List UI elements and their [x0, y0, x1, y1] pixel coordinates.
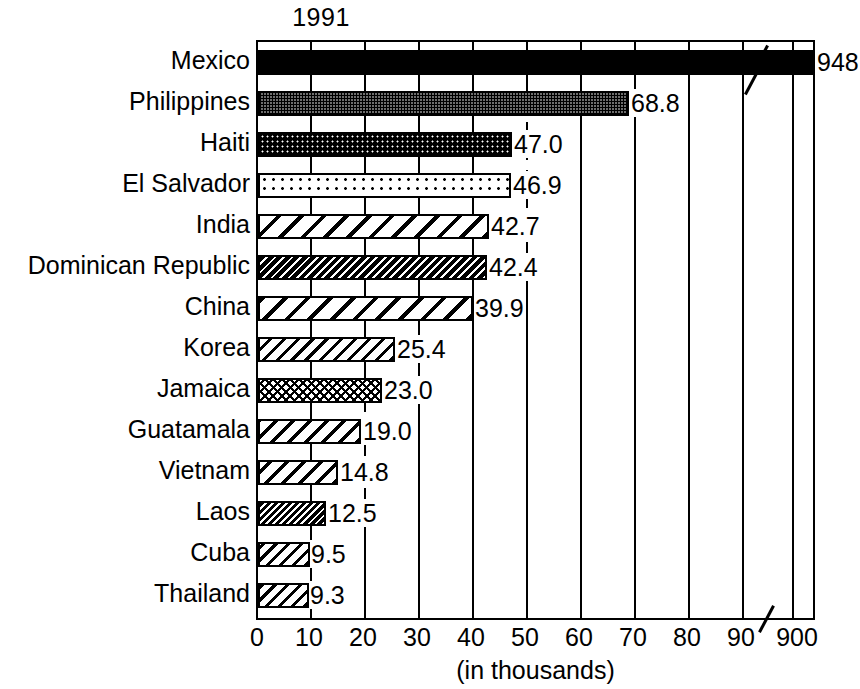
plot-area: 948 68.8 47.0 46.9 42.7 42.4 — [256, 40, 815, 620]
value-label-cuba: 9.5 — [310, 540, 347, 568]
value-label-india: 42.7 — [490, 212, 541, 240]
bar-jamaica[interactable] — [258, 378, 382, 403]
bar-india[interactable] — [258, 214, 489, 239]
value-label-dominican-republic: 42.4 — [488, 253, 539, 281]
bar-row-india: 42.7 — [258, 206, 813, 247]
value-label-el-salvador: 46.9 — [512, 171, 563, 199]
x-tick-30: 30 — [403, 622, 431, 652]
value-label-thailand: 9.3 — [309, 581, 346, 609]
category-label-el-salvador: El Salvador — [0, 163, 250, 204]
bar-row-el-salvador: 46.9 — [258, 165, 813, 206]
bar-row-dominican-republic: 42.4 — [258, 247, 813, 288]
x-tick-10: 10 — [295, 622, 323, 652]
category-label-laos: Laos — [0, 491, 250, 532]
x-tick-40: 40 — [457, 622, 485, 652]
x-axis-tick-labels: 0 10 20 30 40 50 60 70 80 90 900 — [0, 622, 848, 656]
x-tick-90: 90 — [727, 622, 755, 652]
bar-row-mexico: 948 — [258, 42, 813, 83]
x-tick-50: 50 — [511, 622, 539, 652]
bar-thailand[interactable] — [258, 583, 309, 608]
x-tick-80: 80 — [673, 622, 701, 652]
bar-haiti[interactable] — [258, 132, 512, 157]
category-label-india: India — [0, 204, 250, 245]
value-label-philippines: 68.8 — [630, 89, 681, 117]
bar-row-philippines: 68.8 — [258, 83, 813, 124]
bar-laos[interactable] — [258, 501, 326, 526]
x-tick-20: 20 — [349, 622, 377, 652]
bar-row-cuba: 9.5 — [258, 534, 813, 575]
value-label-mexico: 948 — [816, 48, 860, 76]
value-label-vietnam: 14.8 — [339, 458, 390, 486]
x-tick-70: 70 — [619, 622, 647, 652]
bar-china[interactable] — [258, 296, 473, 321]
bar-row-thailand: 9.3 — [258, 575, 813, 616]
category-label-thailand: Thailand — [0, 573, 250, 614]
bar-row-laos: 12.5 — [258, 493, 813, 534]
value-label-korea: 25.4 — [396, 335, 447, 363]
bar-row-china: 39.9 — [258, 288, 813, 329]
value-label-china: 39.9 — [474, 294, 525, 322]
value-label-jamaica: 23.0 — [383, 376, 434, 404]
value-label-haiti: 47.0 — [513, 130, 564, 158]
bar-row-jamaica: 23.0 — [258, 370, 813, 411]
bar-vietnam[interactable] — [258, 460, 338, 485]
y-axis-category-labels: Mexico Philippines Haiti El Salvador Ind… — [0, 40, 250, 620]
bar-mexico[interactable] — [258, 50, 813, 75]
category-label-dominican-republic: Dominican Republic — [0, 245, 250, 286]
value-label-laos: 12.5 — [327, 499, 378, 527]
bar-dominican-republic[interactable] — [258, 255, 487, 280]
bar-row-korea: 25.4 — [258, 329, 813, 370]
bar-row-guatamala: 19.0 — [258, 411, 813, 452]
category-label-cuba: Cuba — [0, 532, 250, 573]
bar-el-salvador[interactable] — [258, 173, 511, 198]
category-label-haiti: Haiti — [0, 122, 250, 163]
bar-row-vietnam: 14.8 — [258, 452, 813, 493]
category-label-guatamala: Guatamala — [0, 409, 250, 450]
category-label-mexico: Mexico — [0, 40, 250, 81]
bar-cuba[interactable] — [258, 542, 310, 567]
x-tick-0: 0 — [250, 622, 264, 652]
chart-title: 1991 — [256, 2, 386, 32]
category-label-china: China — [0, 286, 250, 327]
x-axis-label: (in thousands) — [256, 655, 815, 685]
bar-row-haiti: 47.0 — [258, 124, 813, 165]
x-tick-60: 60 — [565, 622, 593, 652]
bar-korea[interactable] — [258, 337, 395, 362]
bar-guatamala[interactable] — [258, 419, 361, 444]
value-label-guatamala: 19.0 — [362, 417, 413, 445]
category-label-vietnam: Vietnam — [0, 450, 250, 491]
category-label-korea: Korea — [0, 327, 250, 368]
category-label-jamaica: Jamaica — [0, 368, 250, 409]
bar-philippines[interactable] — [258, 91, 629, 116]
category-label-philippines: Philippines — [0, 81, 250, 122]
x-tick-900: 900 — [776, 622, 818, 652]
